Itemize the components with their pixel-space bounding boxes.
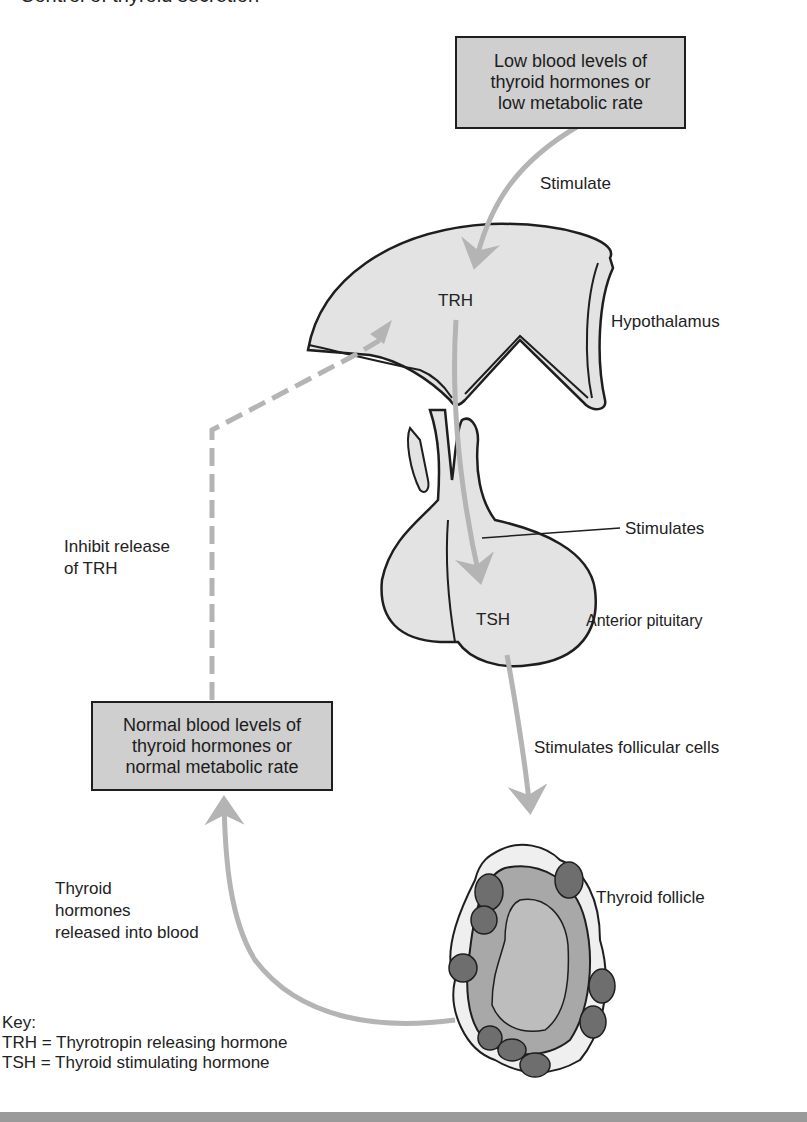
- label-hormones-line-3: released into blood: [55, 922, 199, 943]
- key-entry-tsh: TSH = Thyroid stimulating hormone: [2, 1053, 288, 1073]
- hypothalamus-shape: [308, 224, 613, 409]
- label-tsh: TSH: [476, 609, 510, 630]
- label-thyroid-follicle: Thyroid follicle: [596, 887, 705, 908]
- key-legend: Key: TRH = Thyrotropin releasing hormone…: [2, 1013, 288, 1073]
- low-levels-box: Low blood levels of thyroid hormones or …: [455, 36, 686, 129]
- label-inhibit-line-1: Inhibit release: [64, 536, 170, 557]
- key-heading: Key:: [2, 1013, 288, 1033]
- key-entry-trh: TRH = Thyrotropin releasing hormone: [2, 1033, 288, 1053]
- low-box-line-3: low metabolic rate: [457, 93, 684, 114]
- normal-levels-box: Normal blood levels of thyroid hormones …: [91, 701, 333, 791]
- normal-box-line-3: normal metabolic rate: [93, 757, 331, 778]
- hormones-released-arrow: [224, 800, 455, 1023]
- label-hormones-line-2: hormones: [55, 900, 131, 921]
- diagram-canvas: [0, 0, 807, 1122]
- label-trh: TRH: [438, 290, 473, 311]
- bottom-band: [0, 1112, 807, 1122]
- label-stimulate: Stimulate: [540, 173, 611, 194]
- inhibit-dashed-path: [212, 340, 380, 700]
- low-box-line-2: thyroid hormones or: [457, 72, 684, 93]
- label-stimulates: Stimulates: [625, 518, 704, 539]
- label-hormones-line-1: Thyroid: [55, 878, 112, 899]
- low-box-line-1: Low blood levels of: [457, 51, 684, 72]
- thyroid-follicle-shape: [449, 845, 615, 1077]
- tsh-to-follicle-arrow: [507, 655, 530, 810]
- label-hypothalamus: Hypothalamus: [611, 311, 720, 332]
- normal-box-line-2: thyroid hormones or: [93, 736, 331, 757]
- label-stimulates-follicular: Stimulates follicular cells: [534, 737, 719, 758]
- label-anterior-pituitary: Anterior pituitary: [586, 610, 703, 631]
- label-inhibit-line-2: of TRH: [64, 558, 118, 579]
- normal-box-line-1: Normal blood levels of: [93, 715, 331, 736]
